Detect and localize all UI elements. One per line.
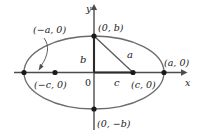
point-vertex-right	[161, 70, 166, 75]
label-covertex-bottom: (0, −b)	[97, 119, 131, 129]
label-origin: 0	[85, 78, 91, 88]
label-vertex-right: (a, 0)	[164, 58, 189, 68]
label-segment-b: b	[80, 55, 86, 65]
point-focus-left	[52, 70, 57, 75]
label-segment-c: c	[114, 78, 120, 88]
label-covertex-top: (0, b)	[98, 23, 124, 33]
label-segment-a: a	[127, 50, 133, 60]
y-axis-arrowhead	[91, 4, 97, 10]
label-x-axis: x	[185, 78, 190, 88]
label-focus-right: (c, 0)	[131, 80, 156, 90]
vertex-left-leader-arrow	[39, 38, 48, 71]
label-y-axis: y	[86, 4, 91, 14]
point-focus-right	[130, 70, 135, 75]
ellipse-figure: (−a, 0) (a, 0) (0, b) (0, −b) (−c, 0) (c…	[0, 0, 199, 139]
x-axis-arrowhead	[181, 69, 188, 75]
point-covertex-bottom	[91, 106, 96, 111]
point-vertex-left	[21, 70, 26, 75]
point-covertex-top	[91, 33, 96, 38]
label-focus-left: (−c, 0)	[34, 80, 67, 90]
label-vertex-left: (−a, 0)	[33, 25, 66, 35]
